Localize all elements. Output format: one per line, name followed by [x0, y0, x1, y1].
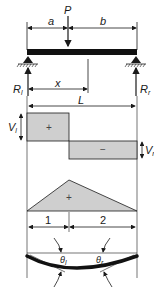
label-Rr: Rr — [140, 83, 151, 96]
shear-minus: − — [100, 144, 106, 155]
label-b: b — [100, 15, 106, 27]
theta-r-arrow-icon — [103, 238, 110, 252]
label-Vr: Vr — [145, 144, 154, 157]
beam — [27, 49, 137, 55]
moment-region — [27, 180, 137, 211]
moment-plus: + — [66, 192, 72, 203]
label-L: L — [78, 94, 84, 106]
label-Rl: Rl — [13, 83, 23, 96]
label-theta-l: θl — [60, 255, 67, 266]
shear-plus: + — [46, 122, 52, 133]
dimension-a-b — [27, 22, 137, 50]
right-support-icon — [125, 56, 146, 67]
label-x: x — [54, 77, 61, 89]
beam-diagram: a b P Rl Rr x L + − Vl Vr + 1 2 — [0, 0, 154, 294]
label-Vl: Vl — [8, 121, 17, 134]
label-a: a — [48, 15, 54, 27]
label-theta-r: θr — [96, 255, 104, 266]
label-seg1: 1 — [45, 214, 51, 226]
label-seg2: 2 — [100, 214, 106, 226]
left-support-icon — [17, 56, 38, 67]
theta-l-arrow-icon — [54, 238, 61, 252]
label-P: P — [64, 4, 72, 16]
